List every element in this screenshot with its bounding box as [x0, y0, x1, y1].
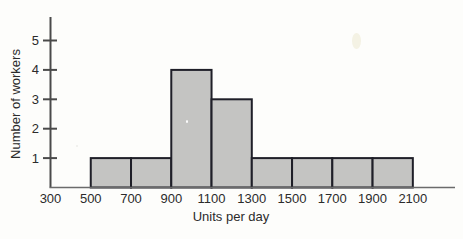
x-axis-tick-label: 1500: [278, 191, 307, 206]
x-axis-tick-label: 1100: [198, 191, 226, 206]
histogram-bar: [91, 158, 131, 187]
histogram-bar: [252, 158, 292, 187]
y-axis-tick-label: 5: [32, 33, 39, 48]
x-axis-tick-label: 700: [120, 191, 142, 206]
y-axis-tick-label: 4: [32, 62, 39, 77]
x-axis-tick-labels: 300500700900110013001500170019002100: [40, 191, 428, 206]
histogram-bar: [292, 158, 332, 187]
y-axis-tick-label: 2: [32, 121, 39, 136]
y-axis-tick-label: 1: [32, 151, 39, 166]
histogram-bar: [131, 158, 171, 187]
x-axis-tick-label: 1900: [358, 191, 387, 206]
x-axis-tick-label: 500: [80, 191, 102, 206]
histogram-chart: 12345 3005007009001100130015001700190021…: [0, 0, 463, 239]
x-axis-tick-label: 2100: [398, 191, 427, 206]
histogram-bar: [373, 158, 413, 187]
y-axis-title: Number of workers: [8, 49, 23, 159]
y-axis-tick-labels: 12345: [32, 33, 39, 166]
x-axis-tick-label: 1700: [318, 191, 347, 206]
x-axis-tick-label: 900: [160, 191, 182, 206]
x-axis-title: Units per day: [193, 209, 270, 224]
histogram-bar: [332, 158, 372, 187]
bar-series: [91, 70, 413, 188]
chart-canvas: 12345 3005007009001100130015001700190021…: [0, 0, 463, 239]
histogram-bar: [212, 99, 252, 187]
histogram-bar: [171, 70, 211, 188]
x-axis-tick-label: 300: [40, 191, 62, 206]
x-axis-tick-label: 1300: [237, 191, 266, 206]
y-axis-tick-label: 3: [32, 92, 39, 107]
